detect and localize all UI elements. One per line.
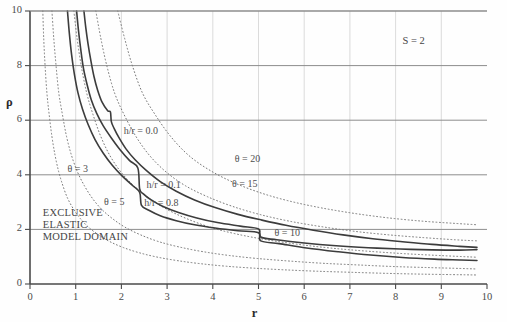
y-tick-label: 6 (17, 114, 22, 125)
series-label-5: θ = 5 (104, 197, 124, 207)
y-tick-label: 8 (17, 60, 22, 71)
y-tick-label: 0 (17, 278, 22, 289)
x-tick-label: 5 (256, 292, 261, 303)
x-tick-label: 4 (210, 292, 215, 303)
x-tick-label: 2 (119, 292, 124, 303)
x-tick-label: 10 (482, 292, 493, 303)
x-axis-label: r (252, 307, 258, 320)
series-label-20: θ = 20 (235, 154, 260, 164)
chart-figure: 0123456789100246810rρh/r = 0.0h/r = 0.1h… (0, 0, 507, 322)
series-label-h-r-0-0: h/r = 0.0 (124, 126, 158, 136)
x-tick-label: 7 (347, 292, 352, 303)
domain-note-line: MODEL DOMAIN (43, 232, 128, 243)
y-tick-label: 2 (17, 223, 22, 234)
x-tick-label: 0 (27, 292, 32, 303)
y-axis-label: ρ (6, 96, 13, 109)
domain-note-line: EXCLUSIVE (43, 208, 103, 219)
x-tick-label: 6 (302, 292, 307, 303)
condition-label: S = 2 (402, 36, 424, 47)
y-tick-label: 4 (17, 169, 22, 180)
series-label-3: θ = 3 (67, 164, 87, 174)
x-tick-label: 1 (73, 292, 78, 303)
series-label-h-r-0-1: h/r = 0.1 (147, 180, 181, 190)
y-tick-label: 10 (12, 5, 23, 16)
series-label-h-r-0-8: h/r = 0.8 (144, 198, 178, 208)
x-tick-label: 9 (439, 292, 444, 303)
x-tick-label: 3 (164, 292, 169, 303)
series-label-10: θ = 10 (274, 228, 299, 238)
domain-note-line: ELASTIC (43, 220, 88, 231)
series-label-15: θ = 15 (232, 179, 257, 189)
x-tick-label: 8 (393, 292, 398, 303)
